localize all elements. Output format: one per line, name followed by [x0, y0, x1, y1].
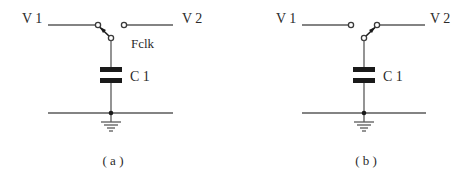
- v1-terminal-a: [95, 22, 100, 27]
- ground-icon-a: [101, 122, 121, 131]
- ground-icon-b: [354, 122, 374, 131]
- v2-label-a: V 2: [182, 11, 202, 26]
- capacitor-bottom-plate-b: [353, 78, 375, 83]
- v1-terminal-b: [348, 22, 353, 27]
- panel-b: V 1 V 2 C 1 ( b ): [276, 11, 450, 168]
- switched-capacitor-diagram: V 1 V 2 Fclk C 1 ( a ) V 1 V 2: [0, 0, 470, 178]
- caption-a: ( a ): [103, 153, 124, 168]
- v2-label-b: V 2: [430, 11, 450, 26]
- v2-terminal-b: [374, 22, 379, 27]
- capacitor-top-plate-a: [100, 67, 122, 72]
- panel-a: V 1 V 2 Fclk C 1 ( a ): [22, 11, 202, 168]
- v2-terminal-a: [121, 22, 126, 27]
- v1-label-b: V 1: [276, 11, 296, 26]
- fclk-label: Fclk: [131, 36, 155, 51]
- c1-label-b: C 1: [383, 69, 403, 84]
- switch-pivot-a: [108, 35, 113, 40]
- capacitor-top-plate-b: [353, 67, 375, 72]
- junction-dot-a: [109, 111, 114, 116]
- junction-dot-b: [362, 111, 367, 116]
- caption-b: ( b ): [355, 153, 377, 168]
- c1-label-a: C 1: [130, 69, 150, 84]
- switch-pivot-b: [361, 35, 366, 40]
- capacitor-bottom-plate-a: [100, 78, 122, 83]
- v1-label-a: V 1: [22, 11, 42, 26]
